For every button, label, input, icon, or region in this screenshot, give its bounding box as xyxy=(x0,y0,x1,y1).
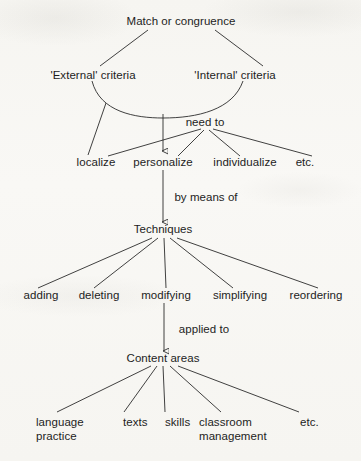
edge-content-language xyxy=(57,366,151,412)
edge-techniques-modifying xyxy=(164,238,166,288)
node-root[interactable]: Match or congruence xyxy=(127,15,236,28)
edge-techniques-adding xyxy=(38,238,152,288)
edge-arc-localize xyxy=(88,103,106,155)
node-classroom-management-line1: classroom xyxy=(199,416,267,430)
node-language-practice[interactable]: language practice xyxy=(36,416,84,443)
edge-techniques-simplifying xyxy=(170,238,233,288)
node-need-to[interactable]: need to xyxy=(186,116,225,129)
node-modifying[interactable]: modifying xyxy=(141,289,191,302)
node-language-practice-line2: practice xyxy=(36,430,84,444)
edge-techniques-reordering xyxy=(177,238,318,288)
node-language-practice-line1: language xyxy=(36,416,84,430)
edge-root-internal xyxy=(215,30,263,66)
edge-needto-personalize xyxy=(178,130,204,156)
node-classroom-management[interactable]: classroom management xyxy=(199,416,267,443)
diagram-canvas: Match or congruence 'External' criteria … xyxy=(0,0,361,461)
node-individualize[interactable]: individualize xyxy=(213,156,276,169)
node-deleting[interactable]: deleting xyxy=(79,289,120,302)
edge-needto-localize xyxy=(108,129,201,156)
node-personalize[interactable]: personalize xyxy=(133,156,192,169)
node-etc-content[interactable]: etc. xyxy=(300,416,319,429)
node-techniques[interactable]: Techniques xyxy=(134,223,193,236)
edge-needto-individualize xyxy=(209,130,240,156)
node-texts[interactable]: texts xyxy=(123,416,148,429)
node-localize[interactable]: localize xyxy=(77,156,116,169)
node-applied-to[interactable]: applied to xyxy=(179,323,229,336)
node-adding[interactable]: adding xyxy=(24,289,59,302)
edge-content-skills xyxy=(163,366,165,412)
node-classroom-management-line2: management xyxy=(199,430,267,444)
edge-content-texts xyxy=(124,366,157,412)
node-simplifying[interactable]: simplifying xyxy=(213,289,267,302)
node-internal-criteria[interactable]: 'Internal' criteria xyxy=(194,69,275,82)
edge-techniques-deleting xyxy=(94,238,158,288)
node-reordering[interactable]: reordering xyxy=(290,289,343,302)
node-external-criteria[interactable]: 'External' criteria xyxy=(50,69,135,82)
node-content-areas[interactable]: Content areas xyxy=(127,352,200,365)
node-etc-actions[interactable]: etc. xyxy=(296,156,315,169)
edge-arc-criteria xyxy=(92,81,243,118)
edge-root-external xyxy=(100,30,148,66)
node-by-means-of[interactable]: by means of xyxy=(174,191,237,204)
edge-needto-etc xyxy=(213,129,312,156)
node-skills[interactable]: skills xyxy=(165,416,190,429)
